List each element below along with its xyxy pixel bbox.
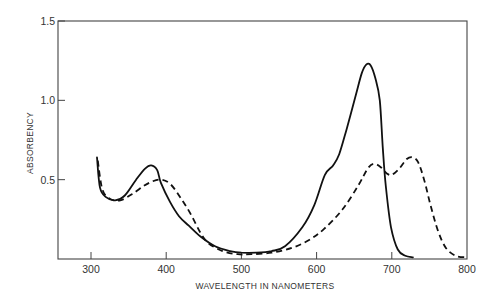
y-axis-title: ABSORBENCY bbox=[25, 112, 35, 174]
dashed-curve bbox=[98, 157, 467, 257]
x-tick-label: 600 bbox=[308, 263, 326, 275]
x-tick-label: 800 bbox=[458, 263, 476, 275]
y-tick-label: 0.5 bbox=[40, 174, 55, 186]
plot-border bbox=[58, 21, 467, 259]
x-tick-label: 400 bbox=[157, 263, 175, 275]
y-axis-ticks: 0.51.01.5 bbox=[40, 15, 65, 186]
y-tick-label: 1.5 bbox=[40, 15, 55, 27]
absorbency-spectrum-chart: 0.51.01.5 300400500600700800 ABSORBENCY … bbox=[0, 0, 503, 301]
data-series bbox=[97, 64, 467, 258]
x-axis-title: WAVELENGTH IN NANOMETERS bbox=[196, 281, 335, 291]
x-tick-label: 300 bbox=[82, 263, 100, 275]
x-tick-label: 500 bbox=[233, 263, 251, 275]
y-tick-label: 1.0 bbox=[40, 94, 55, 106]
solid-curve bbox=[97, 64, 413, 258]
x-tick-label: 700 bbox=[383, 263, 401, 275]
x-axis-ticks: 300400500600700800 bbox=[82, 252, 476, 275]
plot-frame bbox=[58, 21, 467, 259]
